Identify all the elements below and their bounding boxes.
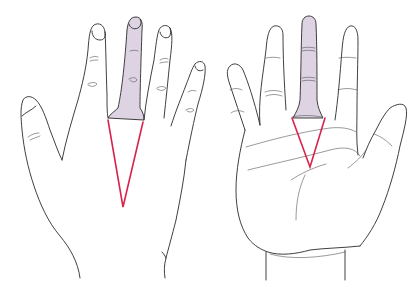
palm-middle-finger-highlight bbox=[293, 16, 323, 118]
back-of-hand bbox=[21, 17, 205, 278]
back-little-finger bbox=[171, 62, 205, 160]
palm-of-hand bbox=[227, 16, 406, 280]
back-hand-right-edge bbox=[164, 160, 186, 278]
back-v-marker bbox=[108, 120, 143, 207]
palm-little-finger bbox=[227, 64, 260, 130]
palm-thumb bbox=[360, 104, 407, 246]
palm-ring-finger bbox=[260, 26, 286, 125]
hand-illustration bbox=[0, 0, 418, 293]
back-thumb-nail bbox=[22, 106, 36, 116]
back-ring-finger bbox=[144, 26, 172, 120]
palm-life-line bbox=[291, 164, 326, 220]
hands-figure bbox=[0, 0, 418, 293]
palm-left-edge bbox=[236, 130, 360, 254]
palm-index-finger bbox=[335, 26, 358, 155]
palm-v-marker bbox=[292, 118, 325, 167]
back-index-finger bbox=[62, 24, 108, 160]
back-middle-finger-highlight bbox=[108, 17, 144, 120]
